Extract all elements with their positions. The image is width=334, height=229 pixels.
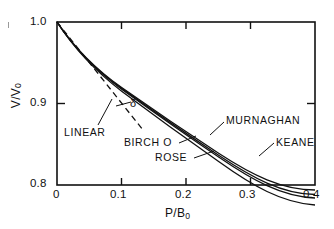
curve-linear-path xyxy=(57,22,143,130)
x-axis-top-ticks xyxy=(122,22,251,29)
y-axis-title: V/V0 xyxy=(6,74,26,134)
annotation-linear: LINEAR xyxy=(64,126,106,138)
y-tick-label-1.0: 1.0 xyxy=(30,15,47,27)
annotation-murnaghan: MURNAGHAN xyxy=(226,114,300,126)
figure-container: 1.0 0.9 0.8 0 0.1 0.2 0.3 0.4 P/B0 V/V0 … xyxy=(0,0,334,229)
x-axis-title: P/B0 xyxy=(165,206,190,221)
annotation-birch: BIRCH O xyxy=(124,136,172,148)
x-tick-label-0.3: 0.3 xyxy=(239,188,256,200)
y-axis-title-main: V/V xyxy=(9,88,23,108)
annotation-keane: KEANE xyxy=(276,136,315,148)
leader-keane xyxy=(259,143,274,156)
x-axis-title-main: P/B xyxy=(165,206,185,220)
x-tick-label-0.2: 0.2 xyxy=(175,188,192,200)
curve-linear xyxy=(57,22,143,130)
annotation-rose: ROSE xyxy=(155,151,187,163)
x-tick-label-0.1: 0.1 xyxy=(110,188,127,200)
y-tick-label-0.9: 0.9 xyxy=(30,96,47,108)
curve-birch-path xyxy=(57,22,315,198)
curve-birch xyxy=(57,22,315,198)
x-axis-title-sub: 0 xyxy=(185,211,190,221)
leader-murnaghan xyxy=(210,122,224,135)
x-tick-label-0: 0 xyxy=(53,188,60,200)
x-tick-label-0.4: 0.4 xyxy=(303,188,320,200)
x-axis-ticks xyxy=(122,178,251,185)
curve-keane-path xyxy=(57,22,315,195)
leader-linear xyxy=(98,99,112,125)
leader-delta xyxy=(116,102,131,106)
curve-murnaghan-path xyxy=(57,22,315,190)
annotation-leaders xyxy=(98,99,274,158)
y-tick-label-0.8: 0.8 xyxy=(30,177,47,189)
y-axis-title-sub: 0 xyxy=(13,83,23,88)
leader-rose xyxy=(194,151,214,158)
curve-keane xyxy=(57,22,315,195)
annotation-delta: δ xyxy=(130,97,137,109)
curve-murnaghan xyxy=(57,22,315,190)
